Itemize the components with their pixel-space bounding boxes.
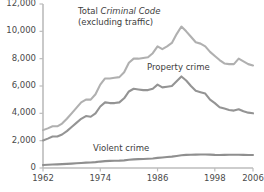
total-criminal-code-label: Total Criminal Code (excluding traffic): [78, 6, 160, 28]
x-axis-tick-label: 1998: [195, 173, 235, 183]
total-label-prefix: Total: [78, 6, 101, 16]
y-axis-tick-label: 6,000: [0, 80, 36, 90]
y-axis-tick-label: 2,000: [0, 135, 36, 145]
total-label-italic: Criminal Code: [101, 6, 161, 16]
x-axis-tick-label: 1962: [23, 173, 63, 183]
y-axis-tick-label: 8,000: [0, 53, 36, 63]
series-line: [43, 76, 253, 140]
series-line: [43, 27, 253, 131]
x-axis-tick-label: 2006: [233, 173, 264, 183]
chart-plot-area: [0, 0, 264, 192]
violent-crime-label: Violent crime: [93, 143, 149, 154]
y-axis-tick-label: 4,000: [0, 107, 36, 117]
x-axis-tick-label: 1986: [138, 173, 178, 183]
crime-rate-line-chart: 02,0004,0006,0008,00010,00012,000 196219…: [0, 0, 264, 192]
total-criminal-code-label-line2: (excluding traffic): [78, 17, 160, 28]
y-axis-tick-label: 10,000: [0, 25, 36, 35]
y-axis-tick-label: 12,000: [0, 0, 36, 8]
series-line: [43, 154, 253, 165]
total-criminal-code-label-line1: Total Criminal Code: [78, 6, 160, 17]
y-axis-tick-label: 0: [0, 162, 36, 172]
property-crime-label: Property crime: [147, 62, 210, 73]
x-axis-tick-label: 1974: [80, 173, 120, 183]
